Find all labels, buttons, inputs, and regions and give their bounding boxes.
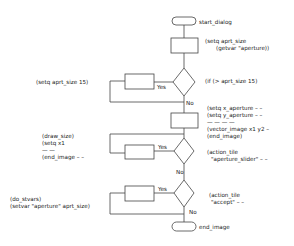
box2-annotation-line4: (vector_image x1 y2 –: [207, 126, 269, 133]
box2-annotation-line3: — — — —: [207, 119, 235, 125]
yes-box-1: [125, 74, 154, 89]
box2-annotation-line5: (end_image): [207, 133, 242, 140]
yes2-annotation-line4: (end_image – –: [42, 154, 84, 161]
process-box-2: [171, 113, 198, 128]
box1-annotation-line2: (getvar "aperture)): [216, 45, 269, 52]
yes1-annotation: (setq aprt_size 15): [36, 79, 88, 86]
decision2-annotation-line2: "aperture_slider" – –: [211, 156, 268, 163]
no-label-1: No: [186, 100, 194, 106]
decision3-annotation-line1: (action_tile: [209, 192, 240, 199]
yes3-annotation-line2: (setvar "aperture" aprt_size): [10, 203, 90, 210]
start-label: start_dialog: [199, 19, 232, 26]
decision-diamond-2: [174, 138, 194, 164]
no-label-3: No: [189, 209, 197, 215]
end-label: end_image: [199, 224, 230, 231]
decision3-annotation-line2: "accept" – –: [211, 199, 244, 206]
start-terminator: [172, 17, 196, 25]
end-terminator: [172, 222, 196, 231]
yes-label-1: Yes: [156, 84, 166, 90]
yes2-annotation-line1: (draw_size): [42, 133, 74, 140]
yes3-annotation-line1: (do_stvars): [10, 196, 41, 203]
process-box-1: [171, 38, 198, 53]
box2-annotation-line1: (setq x_aperture – –: [207, 105, 263, 112]
yes2-annotation-line2: (setq x1: [42, 140, 65, 147]
decision-diamond-3: [174, 180, 194, 207]
no-label-2: No: [176, 169, 184, 175]
yes-box-2: [125, 145, 154, 159]
yes-box-3: [125, 186, 154, 201]
yes-label-3: Yes: [157, 186, 167, 192]
box2-annotation-line2: (setq y_aperture – –: [207, 112, 263, 119]
decision-diamond-1: [173, 68, 195, 96]
decision1-annotation: (if (> aprt_size 15): [205, 78, 257, 85]
flowchart: start_dialog (setq aprt_size (getvar "ap…: [0, 0, 294, 246]
box1-annotation-line1: (setq aprt_size: [205, 38, 247, 45]
decision2-annotation-line1: (action_tile: [207, 149, 238, 156]
yes-label-2: Yes: [157, 144, 167, 150]
yes2-annotation-line3: — —: [42, 147, 55, 153]
